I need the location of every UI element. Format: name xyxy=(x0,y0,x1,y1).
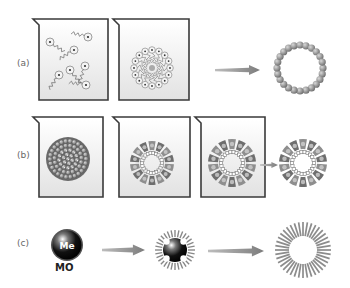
micelle-head-core xyxy=(151,85,153,87)
diagram-canvas: Me xyxy=(0,0,350,288)
coated-sphere xyxy=(155,230,195,270)
cluster-bead xyxy=(83,152,88,157)
rod xyxy=(299,264,301,278)
cluster-highlight xyxy=(64,167,65,168)
cluster-bead xyxy=(68,139,73,144)
cluster-bead xyxy=(67,161,72,166)
shell-inner-bead xyxy=(303,172,306,175)
rod xyxy=(317,246,331,248)
cluster-bead xyxy=(66,170,71,175)
micelle xyxy=(131,47,174,90)
cluster-bead xyxy=(76,171,81,176)
rod xyxy=(186,255,193,258)
cluster-bead xyxy=(59,140,64,145)
segment-highlight xyxy=(316,149,320,153)
cluster-bead xyxy=(75,158,80,163)
segment-highlight xyxy=(319,157,323,161)
surfactant-core xyxy=(85,84,87,86)
micelle-head-core xyxy=(164,54,166,56)
surfactant-core xyxy=(87,36,89,38)
cluster-highlight xyxy=(76,156,77,157)
cluster-highlight xyxy=(74,152,75,153)
cluster-bead xyxy=(63,143,68,148)
shell-inner-bead xyxy=(160,159,163,162)
segment-highlight xyxy=(293,144,297,148)
micelle-head-core xyxy=(134,60,136,62)
segment-highlight xyxy=(164,150,168,154)
shell-inner-bead xyxy=(219,161,222,164)
cluster-bead xyxy=(62,160,67,165)
cluster-bead xyxy=(68,143,73,148)
segment-highlight xyxy=(136,150,140,154)
segment-highlight xyxy=(142,145,146,149)
cluster-highlight xyxy=(72,167,73,168)
row-label-b: (b) xyxy=(17,150,30,160)
rod xyxy=(177,230,179,238)
segment-highlight xyxy=(136,172,140,176)
rod xyxy=(180,261,183,268)
core-notch xyxy=(180,238,186,244)
rod xyxy=(299,222,301,236)
cluster-highlight xyxy=(70,150,71,151)
micelle-head-core xyxy=(133,67,135,69)
cluster-highlight xyxy=(62,152,63,153)
rod xyxy=(157,242,164,245)
shell-inner-bead xyxy=(241,158,244,161)
rod xyxy=(275,252,289,254)
segment-highlight xyxy=(309,144,313,148)
rod xyxy=(167,232,170,239)
segment-highlight xyxy=(167,165,171,169)
segment-highlight xyxy=(211,165,215,169)
cluster-bead xyxy=(65,152,70,157)
shell-inner-bead xyxy=(312,161,315,164)
shell-inner-bead xyxy=(291,164,294,167)
rod xyxy=(157,255,164,258)
segment-highlight xyxy=(133,165,137,169)
rod xyxy=(155,246,163,248)
cluster-bead xyxy=(70,165,75,170)
shell-inner-bead xyxy=(312,158,315,161)
cluster-bead xyxy=(48,161,53,166)
cluster-bead xyxy=(79,155,84,160)
segment-highlight xyxy=(319,165,323,169)
cluster-highlight xyxy=(61,164,62,165)
segment-highlight xyxy=(245,149,249,153)
rod xyxy=(171,230,173,238)
cluster-highlight xyxy=(75,164,76,165)
rod xyxy=(187,246,195,248)
segment-highlight xyxy=(248,165,252,169)
segment-highlight xyxy=(215,173,219,177)
rod xyxy=(155,252,163,254)
cluster-bead xyxy=(66,166,71,171)
segment-highlight xyxy=(230,142,234,146)
micelle-head-core xyxy=(144,84,146,86)
rod xyxy=(317,252,331,254)
micelle-head-core xyxy=(158,50,160,52)
segment-highlight xyxy=(238,144,242,148)
cluster-highlight xyxy=(72,160,73,161)
arrow-shape xyxy=(208,246,264,257)
segment-highlight xyxy=(150,179,154,183)
arrow-shape xyxy=(102,245,145,256)
rod xyxy=(305,222,307,236)
arrow-c2 xyxy=(208,246,264,257)
cluster-bead xyxy=(57,158,62,163)
cluster-highlight xyxy=(60,156,61,157)
segment-highlight xyxy=(211,157,215,161)
segment-highlight xyxy=(167,157,171,161)
segment-highlight xyxy=(282,157,286,161)
segment-highlight xyxy=(150,144,154,148)
shell-inner-bead xyxy=(229,151,232,154)
segment-highlight xyxy=(158,177,162,181)
cluster-highlight xyxy=(71,156,72,157)
cluster-bead xyxy=(59,145,64,150)
segment-highlight xyxy=(164,172,168,176)
shell-inner-bead xyxy=(232,172,235,175)
cluster-highlight xyxy=(77,160,78,161)
cluster-bead xyxy=(68,175,73,180)
segmented-shell-free xyxy=(279,139,327,187)
segment-highlight xyxy=(301,142,305,146)
arrow-shape xyxy=(215,65,260,75)
segment-highlight xyxy=(230,180,234,184)
mo-label: MO xyxy=(55,262,73,273)
